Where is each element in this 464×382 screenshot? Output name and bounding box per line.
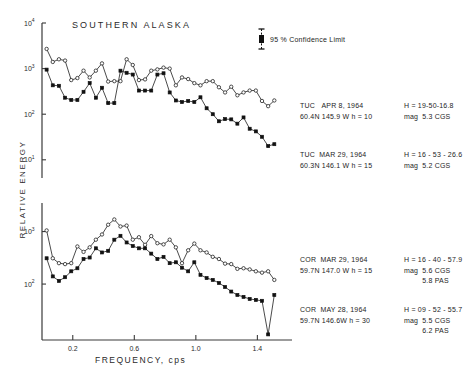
data-point	[63, 262, 66, 265]
data-point	[236, 122, 239, 125]
upper-chart-svg: 104103102101	[0, 0, 300, 195]
series-line	[47, 70, 275, 146]
data-point	[101, 251, 104, 254]
data-point	[193, 101, 196, 104]
event-date: APR 8, 1964	[321, 102, 363, 109]
magnitude-value: 5.3 CGS	[422, 112, 450, 123]
lower-spectrum-panel: 1031020.20.61.01.4	[0, 195, 300, 360]
data-point	[51, 60, 54, 63]
data-point	[230, 118, 233, 121]
data-point	[236, 267, 239, 270]
x-tick-label: 1.4	[253, 345, 263, 352]
data-point	[119, 234, 122, 237]
data-point	[106, 80, 109, 83]
event-coords: 60.3N 146.1 W h = 15	[300, 161, 404, 172]
data-point	[199, 249, 202, 252]
data-point	[266, 104, 269, 107]
station-name: COR	[300, 306, 316, 313]
data-point	[150, 252, 153, 255]
data-point	[156, 242, 159, 245]
series-line	[47, 236, 275, 335]
data-point	[45, 47, 48, 50]
data-point	[187, 99, 190, 102]
data-point	[88, 76, 91, 79]
data-point	[168, 238, 171, 241]
data-point	[168, 67, 171, 70]
lower-chart-svg: 1031020.20.61.01.4	[0, 195, 300, 360]
data-point	[187, 270, 190, 273]
event-coords: 60.4N 145.9 W h = 10	[300, 112, 404, 123]
data-point	[205, 251, 208, 254]
data-point	[82, 69, 85, 72]
data-point	[248, 268, 251, 271]
data-point	[260, 99, 263, 102]
data-point	[131, 245, 134, 248]
annotation-block-tuc-mar29: TUC MAR 29, 1964 60.3N 146.1 W h = 15 H …	[300, 150, 462, 171]
data-point	[211, 255, 214, 258]
data-point	[137, 78, 140, 81]
data-point	[254, 270, 257, 273]
data-point	[137, 89, 140, 92]
magnitude-value-cgs: 5.6 CGS	[422, 266, 450, 277]
data-point	[113, 238, 116, 241]
data-point	[223, 262, 226, 265]
data-point	[63, 59, 66, 62]
data-point	[205, 79, 208, 82]
data-point	[57, 84, 60, 87]
data-point	[119, 69, 122, 72]
annotation-right: H = 09 - 52 - 55.7 mag 5.5 CGS 6.2 PAS	[404, 305, 462, 337]
data-point	[150, 69, 153, 72]
data-point	[205, 107, 208, 110]
event-date: MAY 28, 1964	[320, 306, 366, 313]
magnitude-label: mag	[404, 266, 418, 287]
data-point	[137, 247, 140, 250]
x-tick-label: 1.0	[191, 345, 201, 352]
data-point	[174, 246, 177, 249]
annotation-left: COR MAR 29, 1964 59.7N 147.0 W h = 15	[300, 255, 404, 287]
data-point	[174, 84, 177, 87]
data-point	[76, 76, 79, 79]
data-point	[242, 116, 245, 119]
annotation-right: H = 16 - 53 - 26.6 mag 5.2 CGS	[404, 150, 462, 171]
data-point	[217, 86, 220, 89]
data-point	[70, 261, 73, 264]
data-point	[174, 261, 177, 264]
data-point	[162, 243, 165, 246]
data-point	[230, 85, 233, 88]
magnitude-label: mag	[404, 161, 418, 172]
data-point	[64, 276, 67, 279]
data-point	[45, 229, 48, 232]
data-point	[94, 69, 97, 72]
station-name: COR	[300, 256, 316, 263]
x-tick-label: 0.2	[68, 345, 78, 352]
data-point	[260, 271, 263, 274]
data-point	[94, 238, 97, 241]
data-point	[106, 223, 109, 226]
data-point	[248, 297, 251, 300]
series-line	[47, 219, 275, 279]
data-point	[254, 298, 257, 301]
y-tick-label: 103	[24, 226, 35, 235]
data-point	[88, 256, 91, 259]
station-name: TUC	[300, 102, 315, 109]
y-tick-label: 102	[24, 109, 35, 118]
data-point	[174, 99, 177, 102]
origin-time: H = 09 - 52 - 55.7	[404, 305, 462, 316]
data-point	[181, 266, 184, 269]
annotation-left: TUC MAR 29, 1964 60.3N 146.1 W h = 15	[300, 150, 404, 171]
series-line	[47, 49, 275, 106]
data-point	[199, 96, 202, 99]
data-point	[125, 71, 128, 74]
data-point	[254, 89, 257, 92]
data-point	[168, 91, 171, 94]
data-point	[273, 99, 276, 102]
data-point	[125, 241, 128, 244]
data-point	[217, 120, 220, 123]
data-point	[186, 249, 189, 252]
annotation-block-tuc-apr8: TUC APR 8, 1964 60.4N 145.9 W h = 10 H =…	[300, 101, 454, 122]
data-point	[224, 118, 227, 121]
event-date: MAR 29, 1964	[320, 256, 367, 263]
magnitude-label: mag	[404, 112, 418, 123]
data-point	[162, 66, 165, 69]
data-point	[205, 277, 208, 280]
